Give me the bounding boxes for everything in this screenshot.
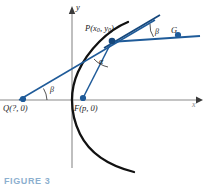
angle-arc-beta-at-P (150, 24, 154, 37)
angle-beta-at-Q-label: β (50, 86, 54, 94)
point-Q-dot (20, 96, 26, 102)
point-P-label-prefix: P(x (85, 23, 97, 33)
angle-beta-at-P-label: β (155, 28, 159, 36)
angle-arc-beta-at-Q (44, 89, 48, 101)
point-P-label-mid: , y (100, 23, 108, 33)
point-P-label-suffix: ) (111, 23, 114, 33)
x-axis-arrowhead (196, 97, 203, 104)
point-Q-label: Q(?, 0) (3, 104, 28, 113)
point-F-label: F(p, 0) (74, 104, 98, 113)
y-axis-arrowhead (69, 6, 75, 14)
point-P-dot (109, 38, 116, 45)
point-F-dot (80, 95, 86, 101)
figure-caption: FIGURE 3 (4, 176, 50, 185)
y-axis-label: y (76, 3, 80, 12)
angle-alpha-label: α (99, 58, 103, 66)
focal-radius-F-P (83, 41, 112, 98)
plotted-points-group (20, 32, 181, 102)
point-P-label: P(x0, y0) (85, 24, 114, 34)
figure-parabola-reflection: y x P(x0, y0) G Q(?, 0) F(p, 0) α β β FI… (0, 0, 205, 185)
point-G-label: G (171, 26, 177, 35)
x-axis-label: x (192, 101, 196, 109)
